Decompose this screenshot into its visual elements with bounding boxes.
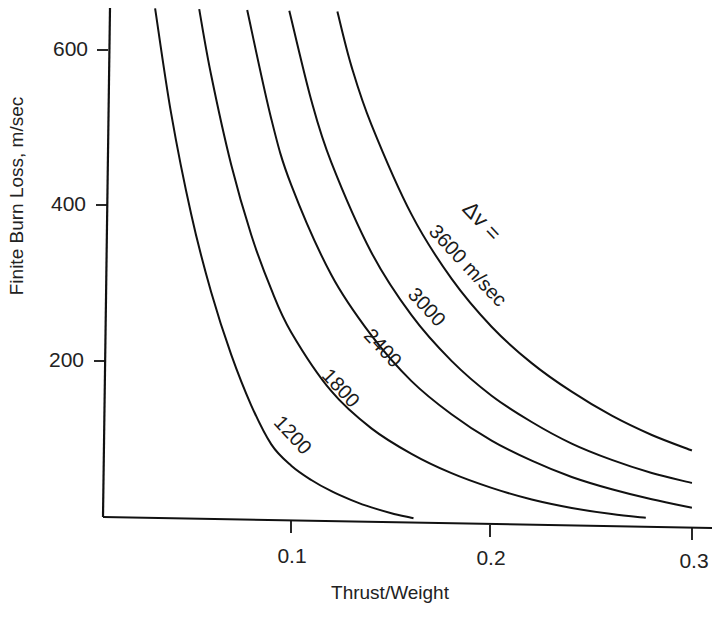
- xtick-label-0.2: 0.2: [461, 546, 521, 570]
- curve-dv-3600: [337, 12, 692, 451]
- y-axis-line: [103, 8, 110, 517]
- curve-group: [155, 8, 692, 518]
- x-axis-line: [103, 517, 712, 528]
- chart-plot-area: [0, 0, 717, 618]
- x-axis-title: Thrust/Weight: [300, 582, 480, 604]
- xtick-label-0.1: 0.1: [262, 544, 322, 568]
- xtick-label-0.3: 0.3: [664, 549, 717, 573]
- ytick-label-400: 400: [26, 192, 86, 216]
- ytick-label-600: 600: [28, 37, 88, 61]
- curve-dv-1800: [199, 9, 646, 518]
- curve-dv-3000: [289, 11, 692, 483]
- ytick-label-200: 200: [24, 348, 84, 372]
- y-axis-title: Finite Burn Loss, m/sec: [6, 61, 28, 331]
